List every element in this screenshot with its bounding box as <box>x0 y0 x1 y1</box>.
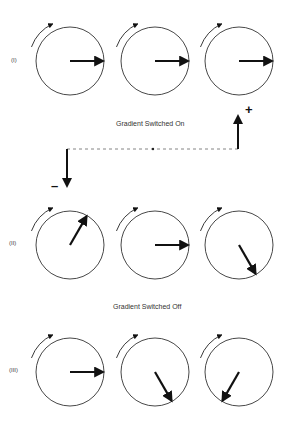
row-label-2: (II) <box>9 240 16 246</box>
caption-gradient-on: Gradient Switched On <box>116 120 184 127</box>
rotation-arrow-icon <box>31 208 52 231</box>
spin-circle-r3-c1 <box>31 335 104 406</box>
minus-sign: – <box>51 178 58 193</box>
row-label-1: (I) <box>11 57 17 63</box>
rotation-arrow-icon <box>200 208 221 231</box>
magnetization-vector <box>70 216 87 245</box>
spin-circle-r2-c2 <box>116 208 189 279</box>
magnetization-vector <box>239 245 256 274</box>
rotation-arrow-icon <box>116 335 137 358</box>
spin-circle-r3-c2 <box>116 335 189 406</box>
rotation-arrow-icon <box>116 24 137 47</box>
spin-circle-r3-c3 <box>200 335 273 406</box>
rotation-arrow-icon <box>200 335 221 358</box>
magnetization-vector <box>223 372 240 401</box>
gradient-midpoint <box>152 148 154 150</box>
caption-gradient-off: Gradient Switched Off <box>113 303 181 310</box>
rotation-arrow-icon <box>31 335 52 358</box>
plus-sign: + <box>245 102 253 117</box>
rotation-arrow-icon <box>31 24 52 47</box>
precession-diagram <box>0 0 291 422</box>
magnetization-vector <box>155 372 172 401</box>
rotation-arrow-icon <box>200 24 221 47</box>
spin-circle-r1-c1 <box>31 24 104 95</box>
spin-circle-r2-c1 <box>31 208 104 279</box>
rotation-arrow-icon <box>116 208 137 231</box>
spin-circle-r1-c2 <box>116 24 189 95</box>
spin-circle-r2-c3 <box>200 208 273 279</box>
row-label-3: (III) <box>9 367 18 373</box>
spin-circle-r1-c3 <box>200 24 273 95</box>
